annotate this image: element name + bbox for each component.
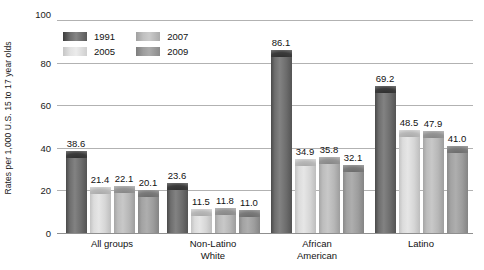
bar-top-cap (66, 151, 87, 158)
bar-top-cap (399, 130, 420, 137)
bar-value-label: 38.6 (67, 138, 86, 149)
bar: 48.5 (399, 130, 420, 233)
bar-top-cap (271, 50, 292, 57)
x-axis-category-label: African American (297, 238, 337, 262)
x-axis-category-label: Non-Latino White (190, 238, 236, 262)
gridline (57, 233, 473, 234)
y-axis-tick-label: 40 (40, 142, 51, 153)
legend-swatch (63, 32, 87, 41)
bar-value-label: 41.0 (448, 133, 467, 144)
bar: 69.2 (375, 86, 396, 233)
bar-body (271, 54, 292, 233)
x-axis-category-label: Latino (408, 238, 434, 250)
bar-top-cap (138, 190, 159, 197)
bar-top-cap (90, 187, 111, 194)
x-axis-labels: All groupsNon-Latino WhiteAfrican Americ… (57, 238, 473, 270)
bar: 35.8 (319, 157, 340, 233)
bar: 11.5 (191, 209, 212, 233)
y-axis-tick-label: 0 (46, 228, 51, 239)
legend-swatch (63, 47, 87, 56)
legend-swatch (136, 32, 160, 41)
bar-value-label: 21.4 (91, 174, 110, 185)
y-axis-tick-label: 60 (40, 100, 51, 111)
bar-body (138, 194, 159, 233)
chart-figure: Rates per 1,000 U.S. 15 to 17 year olds … (0, 0, 484, 270)
bar-top-cap (375, 86, 396, 93)
bar-value-label: 20.1 (139, 177, 158, 188)
bar: 20.1 (138, 190, 159, 233)
bar: 47.9 (423, 131, 444, 233)
bar-top-cap (239, 210, 260, 217)
legend-label: 2005 (94, 46, 115, 57)
bar-top-cap (319, 157, 340, 164)
y-axis-title-text: Rates per 1,000 U.S. 15 to 17 year olds (3, 41, 13, 194)
bar-group: 86.134.935.832.1 (271, 20, 364, 233)
bar-body (447, 150, 468, 233)
bar: 22.1 (114, 186, 135, 233)
bar-value-label: 23.6 (168, 170, 187, 181)
bar: 11.8 (215, 208, 236, 233)
bar-top-cap (215, 208, 236, 215)
bar-body (399, 134, 420, 233)
legend-label: 2007 (167, 31, 188, 42)
bar: 34.9 (295, 159, 316, 233)
bar-body (90, 191, 111, 233)
bar-value-label: 11.5 (192, 196, 210, 207)
bar-top-cap (447, 146, 468, 153)
y-axis-tick-label: 80 (40, 57, 51, 68)
legend-swatch (136, 47, 160, 56)
bar-top-cap (191, 209, 212, 216)
bar-body (114, 190, 135, 233)
legend: 1991200720052009 (63, 30, 202, 58)
bar-top-cap (114, 186, 135, 193)
bar-body (66, 155, 87, 233)
bar-value-label: 47.9 (424, 118, 443, 129)
bar-value-label: 11.8 (216, 195, 234, 206)
bar-value-label: 11.0 (240, 197, 258, 208)
bar-top-cap (343, 165, 364, 172)
y-axis-tick-label: 100 (35, 9, 51, 20)
y-axis-title: Rates per 1,000 U.S. 15 to 17 year olds (0, 0, 16, 236)
bar-top-cap (167, 183, 188, 190)
bar: 32.1 (343, 165, 364, 233)
bar: 41.0 (447, 146, 468, 233)
bar-body (191, 213, 212, 233)
bar-body (319, 161, 340, 233)
bar-value-label: 86.1 (272, 37, 291, 48)
bar-value-label: 32.1 (344, 152, 363, 163)
bar-value-label: 35.8 (320, 144, 339, 155)
bar-value-label: 34.9 (296, 146, 315, 157)
bar-body (343, 169, 364, 233)
x-axis-category-label: All groups (91, 238, 133, 250)
bar-body (375, 90, 396, 233)
bar-body (423, 135, 444, 233)
bar: 11.0 (239, 210, 260, 233)
bar-body (167, 187, 188, 233)
bar-body (215, 212, 236, 233)
bar: 21.4 (90, 187, 111, 233)
bar-top-cap (423, 131, 444, 138)
bar-value-label: 22.1 (115, 173, 134, 184)
bar-top-cap (295, 159, 316, 166)
bar: 38.6 (66, 151, 87, 233)
legend-label: 1991 (94, 31, 115, 42)
y-axis-tick-label: 20 (40, 185, 51, 196)
bar-body (295, 163, 316, 233)
bar-value-label: 48.5 (400, 117, 419, 128)
bar-value-label: 69.2 (376, 73, 395, 84)
legend-label: 2009 (167, 46, 188, 57)
bar: 23.6 (167, 183, 188, 233)
bar-group: 69.248.547.941.0 (375, 20, 468, 233)
bar: 86.1 (271, 50, 292, 233)
